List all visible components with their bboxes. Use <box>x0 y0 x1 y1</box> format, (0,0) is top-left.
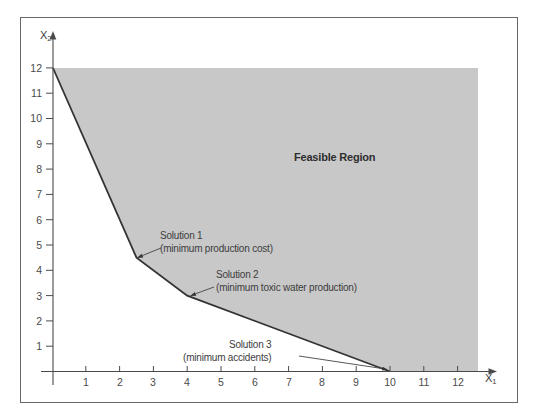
x-tick-label: 6 <box>246 376 264 388</box>
solution-2-annotation: Solution 2 (minimum toxic water producti… <box>216 268 357 294</box>
y-tick-marks <box>46 68 53 346</box>
solution-2-description: (minimum toxic water production) <box>216 281 357 294</box>
y-tick-label: 10 <box>22 112 42 124</box>
y-tick-label: 3 <box>22 290 42 302</box>
y-tick-label: 11 <box>22 87 42 99</box>
solution-3-description: (minimum accidents) <box>183 351 271 364</box>
y-axis-title-sub: 2 <box>47 34 51 43</box>
x-axis-title-sub: 1 <box>492 377 496 386</box>
figure-page: X2 X1 Feasible Region 1 2 3 4 5 6 7 8 9 … <box>0 0 535 417</box>
x-tick-label: 10 <box>381 376 399 388</box>
feasible-region-label: Feasible Region <box>294 151 375 163</box>
y-tick-label: 9 <box>22 138 42 150</box>
x-tick-label: 7 <box>280 376 298 388</box>
y-axis-title: X2 <box>40 29 52 43</box>
y-tick-label: 5 <box>22 239 42 251</box>
x-tick-label: 1 <box>77 376 95 388</box>
x-tick-label: 8 <box>313 376 331 388</box>
y-tick-label: 7 <box>22 188 42 200</box>
solution-2-name: Solution 2 <box>216 268 357 281</box>
x-tick-label: 4 <box>178 376 196 388</box>
x-axis-title: X1 <box>485 372 497 386</box>
x-tick-label: 5 <box>212 376 230 388</box>
x-tick-label: 9 <box>347 376 365 388</box>
solution-1-annotation: Solution 1 (minimum production cost) <box>160 229 273 255</box>
solution-1-description: (minimum production cost) <box>160 242 273 255</box>
solution-3-name: Solution 3 <box>229 338 271 351</box>
y-tick-label: 1 <box>22 340 42 352</box>
y-tick-label: 12 <box>22 62 42 74</box>
x-tick-label: 2 <box>111 376 129 388</box>
y-tick-label: 2 <box>22 315 42 327</box>
solution-1-name: Solution 1 <box>160 229 273 242</box>
x-tick-label: 3 <box>144 376 162 388</box>
x-tick-label: 11 <box>415 376 433 388</box>
y-tick-label: 4 <box>22 264 42 276</box>
x-tick-label: 12 <box>449 376 467 388</box>
feasible-region-area <box>53 68 478 372</box>
y-tick-label: 6 <box>22 214 42 226</box>
y-tick-label: 8 <box>22 163 42 175</box>
